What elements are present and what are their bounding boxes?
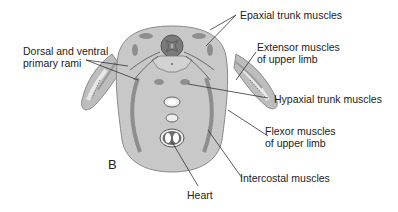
label-extensor-muscles-line1: Extensor muscles (257, 41, 340, 53)
label-flexor-muscles-line2: of upper limb (265, 137, 336, 149)
label-dorsal-ventral-rami: Dorsal and ventral primary rami (23, 45, 108, 69)
trunk-body (116, 26, 227, 172)
label-extensor-muscles: Extensor muscles of upper limb (257, 41, 340, 65)
label-intercostal-muscles: Intercostal muscles (240, 172, 330, 184)
label-dorsal-ventral-rami-line1: Dorsal and ventral (23, 45, 108, 57)
label-dorsal-ventral-rami-line2: primary rami (23, 57, 108, 69)
label-heart: Heart (187, 189, 213, 201)
label-extensor-muscles-line2: of upper limb (257, 53, 340, 65)
label-flexor-muscles: Flexor muscles of upper limb (265, 125, 336, 149)
label-hypaxial-trunk-muscles: Hypaxial trunk muscles (274, 93, 382, 105)
label-epaxial-trunk-muscles: Epaxial trunk muscles (240, 9, 342, 21)
label-flexor-muscles-line1: Flexor muscles (265, 125, 336, 137)
panel-letter: B (108, 159, 117, 171)
embryo-cross-section-diagram (0, 0, 398, 212)
